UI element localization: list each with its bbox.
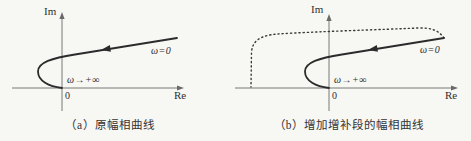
caption-b: （b）增加增补段的幅相曲线: [239, 116, 459, 132]
omega-infinity-label: ω→+∞: [334, 74, 367, 85]
panel-b: Im Re 0 ω=0 ω→+∞ （b）增加增补段的幅相曲线: [235, 0, 471, 141]
im-axis-arrow-icon: [326, 14, 331, 21]
omega-zero-label: ω=0: [420, 44, 440, 55]
im-axis-label: Im: [44, 6, 56, 17]
panel-a: Im Re 0 ω=0 ω→+∞ （a）原幅相曲线: [0, 0, 235, 141]
amplitude-phase-curves-figure: Im Re 0 ω=0 ω→+∞ （a）原幅相曲线 Im Re 0 ω=0 ω→…: [0, 0, 471, 141]
omega-zero-label: ω=0: [151, 45, 171, 56]
origin-label: 0: [332, 90, 337, 101]
re-axis-label: Re: [174, 90, 186, 101]
omega-infinity-label: ω→+∞: [67, 74, 100, 85]
caption-a: （a）原幅相曲线: [0, 116, 220, 132]
im-axis-arrow-icon: [59, 12, 64, 19]
im-axis-label: Im: [311, 4, 323, 15]
origin-label: 0: [65, 90, 70, 101]
re-axis-label: Re: [445, 90, 457, 101]
